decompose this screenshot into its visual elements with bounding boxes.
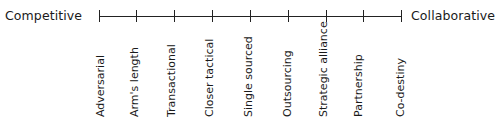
stage-label-transactional: Transactional (166, 44, 178, 117)
tick-mark (174, 10, 175, 22)
stage-label-arms-length: Arm's length (129, 47, 141, 117)
stage-label-outsourcing: Outsourcing (282, 50, 294, 117)
stage-label-strategic-alliance: Strategic alliance (318, 21, 330, 117)
tick-mark (136, 10, 137, 22)
stage-label-partnership: Partnership (353, 54, 365, 117)
stage-label-adversarial: Adversarial (95, 55, 107, 117)
stage-label-co-destiny: Co-destiny (395, 58, 407, 117)
stage-label-closer-tactical: Closer tactical (204, 39, 216, 117)
tick-mark (212, 10, 213, 22)
tick-mark (363, 10, 364, 22)
collaborative-end-label: Collaborative (411, 8, 495, 24)
stage-label-single-sourced: Single sourced (243, 36, 255, 117)
tick-mark (99, 10, 100, 22)
competitive-end-label: Competitive (5, 8, 82, 24)
tick-mark (250, 10, 251, 22)
tick-mark (288, 10, 289, 22)
tick-mark (401, 10, 402, 22)
